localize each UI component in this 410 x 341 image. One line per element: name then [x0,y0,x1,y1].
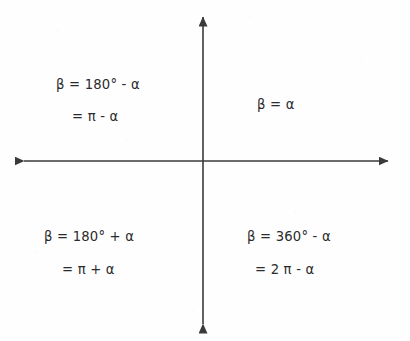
quadrant-4-formula-degrees: β = 360° - α [247,230,331,243]
quadrant-2-formula-degrees: β = 180° - α [56,78,140,91]
diagram-canvas: β = 180° - α = π - α β = α β = 180° + α … [0,0,410,341]
coordinate-axes [0,0,410,341]
quadrant-3-formula-degrees: β = 180° + α [44,230,134,243]
quadrant-2-formula-radians: = π - α [72,110,118,123]
quadrant-3-formula-radians: = π + α [62,263,115,276]
quadrant-4-formula-radians: = 2 π - α [255,263,314,276]
quadrant-1-formula-degrees: β = α [257,98,295,111]
